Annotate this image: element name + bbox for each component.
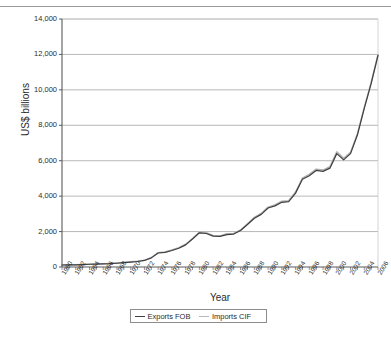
y-tick-label: 6,000 (23, 156, 57, 165)
chart-legend: Exports FOBImports CIF (130, 309, 267, 323)
y-tick-label: 0 (23, 262, 57, 271)
series-lines (62, 55, 378, 265)
plot-border (62, 19, 378, 267)
legend-label: Exports FOB (148, 312, 191, 321)
axis-lines (62, 19, 378, 267)
chart-figure: 14,00012,00010,0008,0006,0004,0002,0000 … (0, 0, 391, 338)
series-line-exports-fob (62, 55, 378, 265)
grid-layer (62, 19, 378, 232)
y-tick-label: 12,000 (23, 49, 57, 58)
y-tick-label: 2,000 (23, 227, 57, 236)
legend-label: Imports CIF (212, 312, 251, 321)
legend-item: Imports CIF (199, 312, 251, 321)
legend-swatch-icon (135, 316, 145, 317)
y-tick-label: 14,000 (23, 14, 57, 23)
plot-canvas (0, 0, 391, 338)
y-tick-label: 4,000 (23, 191, 57, 200)
y-axis-title: US$ billions (20, 64, 31, 156)
x-axis-title: Year (62, 292, 378, 303)
legend-swatch-icon (199, 316, 209, 317)
tick-marks (59, 19, 378, 270)
series-line-imports-cif (62, 55, 378, 265)
legend-item: Exports FOB (135, 312, 190, 321)
